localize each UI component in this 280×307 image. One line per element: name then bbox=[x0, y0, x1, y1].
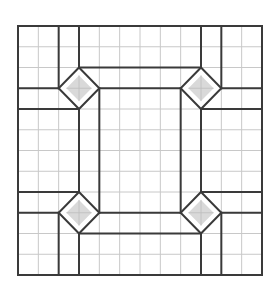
diamond-top-right bbox=[181, 68, 222, 110]
grid-diagram bbox=[0, 0, 280, 307]
diamond-bottom-right bbox=[181, 192, 222, 234]
grid-lines bbox=[18, 26, 262, 275]
diamond-bottom-left bbox=[59, 192, 100, 234]
diamond-top-left bbox=[59, 68, 100, 110]
